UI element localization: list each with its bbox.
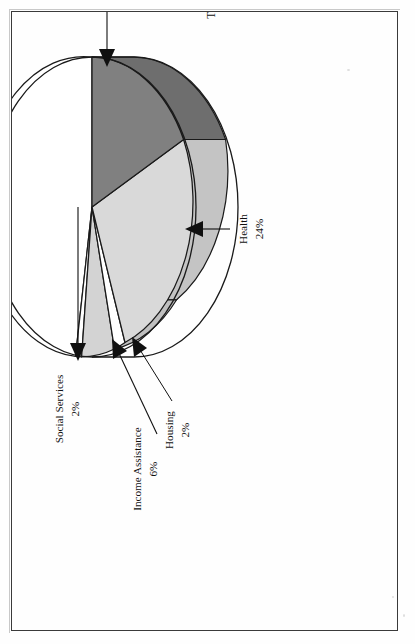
label-income-assistance-line1: Income Assistance — [131, 427, 143, 511]
scanned-page: Pensions/Veterans Benefits 41% Social Se… — [0, 0, 415, 644]
leader-income-assistance — [116, 347, 157, 434]
label-social-services-percent: 2% — [69, 402, 81, 417]
label-housing-line1: Housing — [163, 411, 175, 449]
label-income-assistance-percent: 6% — [147, 462, 159, 477]
pie-3d — [0, 57, 238, 357]
pie-chart-figure: Pensions/Veterans Benefits 41% Social Se… — [0, 0, 415, 644]
label-housing: Housing 2% — [163, 411, 191, 449]
rotated-figure-group: Pensions/Veterans Benefits 41% Social Se… — [0, 0, 265, 511]
label-social-services: Social Services 2% — [53, 375, 81, 444]
label-health-line1: Health — [237, 214, 249, 244]
label-health: Health 24% — [237, 214, 265, 244]
callout-housing — [132, 337, 172, 401]
leader-housing — [137, 345, 172, 401]
label-income-assistance: Income Assistance 6% — [131, 427, 159, 511]
total-caption: Total $955.9 billion — [205, 0, 218, 19]
label-housing-percent: 2% — [179, 423, 191, 438]
label-social-services-line1: Social Services — [53, 375, 65, 444]
label-health-percent: 24% — [253, 219, 265, 240]
